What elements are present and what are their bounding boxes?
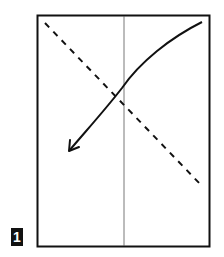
origami-diagram bbox=[0, 0, 224, 257]
paper-sheet bbox=[38, 16, 210, 247]
